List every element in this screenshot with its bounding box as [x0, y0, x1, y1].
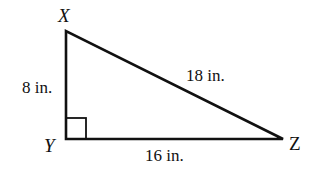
vertex-label-x: X [57, 5, 71, 26]
side-label-xz: 18 in. [186, 66, 225, 85]
vertex-label-z: Z [289, 133, 301, 154]
side-label-xy: 8 in. [22, 78, 52, 97]
right-angle-marker [66, 118, 86, 139]
triangle-xyz [66, 31, 283, 139]
vertex-label-y: Y [44, 135, 57, 156]
triangle-diagram: X Y Z 8 in. 16 in. 18 in. [0, 0, 321, 179]
side-label-yz: 16 in. [145, 146, 184, 165]
